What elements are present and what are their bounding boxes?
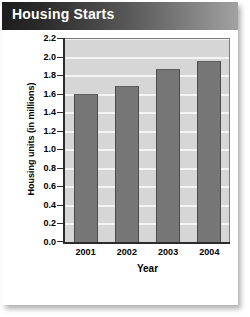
y-axis-tick-label: 0.4 (32, 200, 56, 210)
page-title: Housing Starts (12, 6, 114, 22)
y-axis-tick-label: 2.2 (32, 33, 56, 43)
chart-title-bar: Housing Starts (2, 2, 238, 30)
chart-plot-region: Housing units (in millions) 2.22.01.81.6… (2, 30, 238, 305)
x-axis-line (63, 242, 230, 244)
x-axis-tick-label: 2003 (158, 247, 178, 257)
bar-2001 (74, 94, 98, 242)
x-axis-tick-label: 2004 (199, 247, 219, 257)
gridline (65, 57, 229, 59)
y-axis-tick-label: 1.6 (32, 89, 56, 99)
bar-2003 (156, 69, 180, 242)
y-axis-tick-label: 1.4 (32, 107, 56, 117)
x-axis-title: Year (65, 263, 230, 274)
x-axis-tick-label: 2002 (117, 247, 137, 257)
y-axis-tick-label: 0.8 (32, 163, 56, 173)
x-axis-tick-label: 2001 (76, 247, 96, 257)
y-axis-tick-label: 1.8 (32, 70, 56, 80)
y-axis-tick-label: 1.2 (32, 126, 56, 136)
gridline (65, 38, 229, 40)
y-axis-tick-label: 1.0 (32, 144, 56, 154)
y-axis-tick-label: 2.0 (32, 52, 56, 62)
chart-card: Housing Starts Housing units (in million… (2, 2, 238, 305)
y-axis-tick-label: 0.2 (32, 218, 56, 228)
bar-2004 (197, 61, 221, 242)
y-axis-tick-label: 0.0 (32, 237, 56, 247)
bar-2002 (115, 86, 139, 242)
y-axis-tick-labels: 2.22.01.81.61.41.21.00.80.60.40.20.0 (32, 38, 56, 242)
y-axis-tick-label: 0.6 (32, 181, 56, 191)
plot-area (65, 38, 230, 242)
x-axis-tick-labels: 2001200220032004 (65, 247, 230, 261)
